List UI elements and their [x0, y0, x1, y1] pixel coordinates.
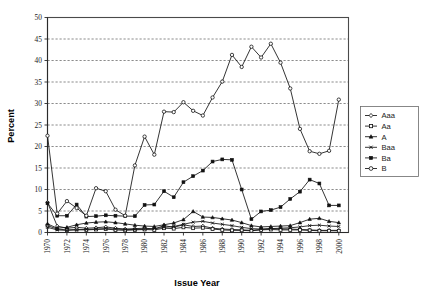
data-point-open-circle	[318, 152, 321, 155]
data-point-solid-square	[163, 190, 166, 193]
data-point-solid-square	[318, 182, 321, 185]
data-point-solid-square	[133, 215, 136, 218]
x-tick-label: 1996	[296, 239, 305, 254]
y-tick-label: 25	[35, 121, 43, 130]
data-point-open-circle	[114, 208, 117, 211]
legend-label-B: B	[382, 164, 387, 173]
data-point-solid-square	[269, 209, 272, 212]
data-point-solid-square	[221, 158, 224, 161]
data-point-open-circle	[369, 167, 373, 171]
data-point-open-circle	[56, 212, 59, 215]
y-tick-label: 30	[35, 99, 43, 108]
x-tick-label: 1974	[82, 239, 91, 254]
x-tick-label: 1986	[199, 239, 208, 254]
data-point-open-circle	[250, 45, 253, 48]
data-point-solid-square	[104, 214, 107, 217]
x-tick-label: 1970	[43, 239, 52, 254]
x-axis-title: Issue Year	[174, 278, 220, 288]
data-point-open-circle	[269, 42, 272, 45]
chart-legend: AaaAaABaaBaB	[361, 107, 419, 177]
data-point-open-circle	[289, 87, 292, 90]
data-point-open-circle	[104, 190, 107, 193]
data-point-open-circle	[298, 127, 301, 130]
x-tick-label: 1984	[179, 239, 188, 254]
y-tick-label: 50	[35, 13, 43, 22]
y-tick-label: 15	[35, 164, 43, 173]
legend-label-Aa: Aa	[382, 122, 392, 131]
data-point-open-square	[308, 229, 311, 232]
y-tick-label: 10	[35, 185, 43, 194]
data-point-solid-square	[182, 181, 185, 184]
x-tick-label: 1982	[160, 239, 169, 254]
data-point-open-circle	[337, 98, 340, 101]
data-point-solid-square	[240, 188, 243, 191]
data-point-open-circle	[191, 109, 194, 112]
data-point-open-circle	[94, 187, 97, 190]
x-tick-label: 1978	[121, 239, 130, 254]
data-point-open-square	[221, 228, 224, 231]
x-tick-label: 1972	[63, 239, 72, 254]
data-point-open-square	[201, 226, 204, 229]
data-point-open-circle	[65, 199, 68, 202]
x-tick-label: 1994	[276, 239, 285, 254]
line-chart: 05101520253035404550 1970197219741976197…	[0, 0, 433, 292]
y-tick-label: 40	[35, 56, 43, 65]
data-point-open-square	[369, 125, 372, 128]
data-point-open-square	[328, 229, 331, 232]
data-point-open-circle	[327, 149, 330, 152]
legend-label-Aaa: Aaa	[382, 111, 396, 120]
data-point-open-circle	[123, 214, 126, 217]
data-point-open-square	[318, 229, 321, 232]
chart-figure: 05101520253035404550 1970197219741976197…	[0, 0, 433, 292]
data-point-open-square	[337, 229, 340, 232]
data-point-open-circle	[143, 135, 146, 138]
x-tick-label: 1980	[140, 239, 149, 254]
data-point-open-circle	[162, 110, 165, 113]
x-tick-label: 1998	[315, 239, 324, 254]
data-point-open-circle	[279, 61, 282, 64]
x-tick-label: 1990	[237, 239, 246, 254]
data-point-open-circle	[182, 101, 185, 104]
y-tick-label: 45	[35, 35, 43, 44]
data-point-open-square	[192, 227, 195, 230]
data-point-open-circle	[75, 206, 78, 209]
x-tick-label: 1992	[257, 239, 266, 254]
data-point-open-square	[182, 226, 185, 229]
data-point-solid-square	[279, 206, 282, 209]
data-point-open-square	[240, 229, 243, 232]
data-point-open-circle	[85, 214, 88, 217]
data-point-solid-square	[65, 214, 68, 217]
data-point-solid-square	[95, 215, 98, 218]
data-point-solid-square	[211, 160, 214, 163]
y-tick-label: 35	[35, 78, 43, 87]
x-tick-label: 1976	[102, 239, 111, 254]
data-point-open-circle	[211, 96, 214, 99]
data-point-solid-square	[201, 169, 204, 172]
data-point-solid-square	[143, 204, 146, 207]
data-point-open-circle	[201, 114, 204, 117]
data-point-open-square	[299, 228, 302, 231]
y-axis-title: Percent	[6, 109, 16, 143]
data-point-solid-square	[46, 202, 49, 205]
data-point-solid-square	[250, 218, 253, 221]
legend-label-Baa: Baa	[382, 143, 396, 152]
data-point-solid-square	[260, 210, 263, 213]
data-point-open-circle	[308, 150, 311, 153]
data-point-solid-square	[369, 156, 372, 159]
data-point-open-circle	[133, 164, 136, 167]
data-point-solid-square	[114, 214, 117, 217]
data-point-open-circle	[259, 56, 262, 59]
data-point-solid-square	[289, 198, 292, 201]
legend-label-Ba: Ba	[382, 154, 392, 163]
data-point-solid-square	[337, 204, 340, 207]
x-tick-label: 1988	[218, 239, 227, 254]
data-point-solid-square	[75, 203, 78, 206]
data-point-open-circle	[240, 65, 243, 68]
x-tick-label: 2000	[335, 239, 344, 254]
data-point-open-square	[231, 229, 234, 232]
y-tick-label: 0	[38, 228, 42, 237]
data-point-solid-square	[328, 204, 331, 207]
data-point-solid-square	[153, 203, 156, 206]
data-point-solid-square	[172, 196, 175, 199]
data-point-open-circle	[46, 134, 49, 137]
